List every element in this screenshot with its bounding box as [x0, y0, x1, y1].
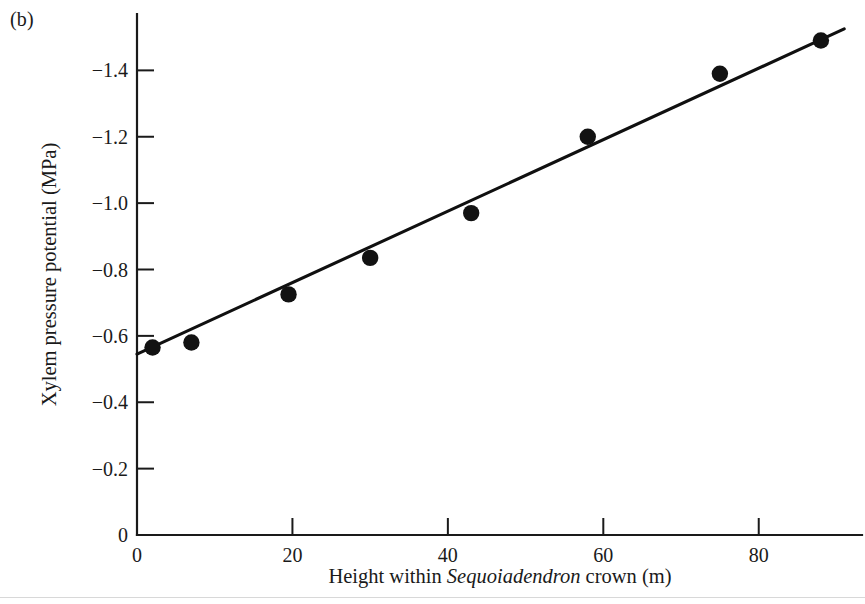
x-axis-label: Height within Sequoiadendron crown (m) — [150, 565, 850, 588]
scatter-plot: 0−0.2−0.4−0.6−0.8−1.0−1.2−1.4 020406080 — [0, 0, 865, 604]
y-axis-tick-labels: 0−0.2−0.4−0.6−0.8−1.0−1.2−1.4 — [92, 59, 128, 546]
y-tick-label: 0 — [118, 524, 128, 546]
x-axis-label-suffix: crown (m) — [580, 565, 671, 587]
data-point — [813, 32, 829, 48]
y-tick-label: −0.2 — [92, 458, 128, 480]
x-tick-label: 80 — [749, 544, 769, 566]
y-tick-label: −1.0 — [92, 192, 128, 214]
plot-axes — [137, 14, 862, 535]
data-point — [362, 250, 378, 266]
data-point — [712, 65, 728, 81]
y-tick-label: −0.6 — [92, 325, 128, 347]
y-axis-label: Xylem pressure potential (MPa) — [38, 45, 61, 505]
x-axis-label-species: Sequoiadendron — [447, 565, 581, 587]
figure-panel-b: (b) 0−0.2−0.4−0.6−0.8−1.0−1.2−1.4 020406… — [0, 0, 865, 604]
data-point — [144, 339, 160, 355]
x-tick-label: 0 — [132, 544, 142, 566]
y-tick-label: −0.8 — [92, 259, 128, 281]
y-tick-label: −0.4 — [92, 391, 128, 413]
x-tick-label: 20 — [282, 544, 302, 566]
y-axis-ticks — [137, 70, 154, 468]
data-point — [280, 286, 296, 302]
y-tick-label: −1.2 — [92, 126, 128, 148]
data-point — [183, 334, 199, 350]
y-tick-label: −1.4 — [92, 59, 128, 81]
page-bottom-edge — [0, 597, 865, 604]
data-point — [463, 205, 479, 221]
x-tick-label: 40 — [438, 544, 458, 566]
x-axis-tick-labels: 020406080 — [132, 544, 769, 566]
x-tick-label: 60 — [593, 544, 613, 566]
regression-line — [137, 29, 844, 354]
x-axis-label-prefix: Height within — [328, 565, 446, 587]
x-axis-ticks — [292, 518, 758, 535]
data-point — [580, 129, 596, 145]
regression-line-segment — [137, 29, 844, 354]
